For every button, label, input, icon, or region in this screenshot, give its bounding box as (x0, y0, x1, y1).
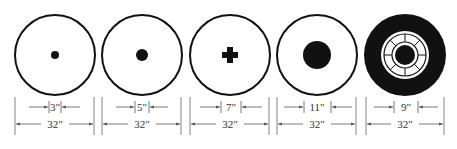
outer-dimension-label: 32" (397, 118, 413, 130)
target-5: 9" 32" (364, 14, 446, 135)
outer-dimension-label: 32" (134, 118, 150, 130)
inner-dimension-label: 9" (401, 101, 411, 113)
outer-dimension-label: 32" (222, 118, 238, 130)
target-1: 3" 32" (15, 15, 95, 135)
outer-dimension-label: 32" (309, 118, 325, 130)
inner-dimension-label: 7" (226, 101, 236, 113)
inner-dimension-label: 3" (50, 101, 60, 113)
center-dot-icon (303, 41, 331, 69)
target-2: 5" 32" (102, 15, 182, 135)
inner-dimension-label: 11" (309, 101, 324, 113)
wheel-icon (381, 31, 429, 79)
center-dot-icon (51, 51, 59, 59)
target-4: 11" 32" (277, 15, 357, 135)
outer-dimension-label: 32" (47, 118, 63, 130)
target-diagram: 3" 32" 5" 32" 7" 32" (0, 0, 457, 149)
inner-dimension-label: 5" (137, 101, 147, 113)
target-3: 7" 32" (190, 15, 270, 135)
center-dot-icon (136, 49, 148, 61)
